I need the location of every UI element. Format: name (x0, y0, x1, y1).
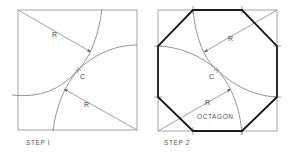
octagon-construction-diagram: R R C STEP I R R C OC (0, 0, 288, 157)
step1-panel: R R C STEP I (12, 9, 137, 146)
step1-arc-2 (12, 45, 137, 96)
step1-radius-line-2 (64, 89, 137, 130)
step2-radius-label-2: R (205, 99, 210, 106)
step2-panel: R R C OCTAGON STEP 2 (154, 6, 281, 146)
step1-caption: STEP I (26, 139, 50, 146)
step1-center-label: C (80, 73, 85, 80)
step2-arrowhead-2 (227, 89, 231, 92)
step2-caption: STEP 2 (164, 139, 190, 146)
step2-center-label: C (209, 73, 214, 80)
step2-radius-line-1 (204, 10, 277, 52)
step2-radius-line-2 (158, 89, 231, 131)
step2-arc-2 (158, 46, 277, 97)
step2-radius-label-1: R (228, 35, 233, 42)
step1-radius-label-2: R (84, 101, 89, 108)
step2-shape-label: OCTAGON (197, 113, 234, 120)
step2-arrowhead-1 (204, 49, 208, 52)
step1-radius-label-1: R (52, 31, 57, 38)
